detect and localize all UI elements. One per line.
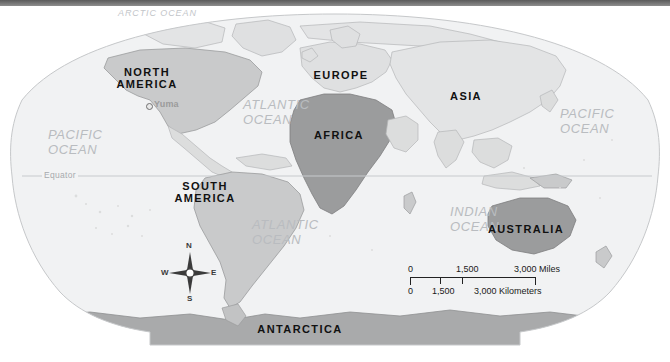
- world-map-figure: ARCTIC OCEAN PACIFIC OCEAN PACIFIC OCEAN…: [0, 0, 670, 362]
- world-map-graphic: [0, 0, 670, 362]
- globe-body: [0, 0, 670, 362]
- landmass-antarctica: [0, 310, 670, 346]
